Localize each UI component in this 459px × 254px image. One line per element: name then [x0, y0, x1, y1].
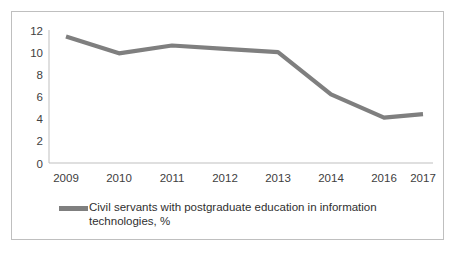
y-tick-label-10: 10: [30, 47, 43, 59]
y-tick-label-6: 6: [37, 91, 43, 103]
y-tick-label-2: 2: [37, 135, 43, 147]
chart-frame: 12 10 8 6 4 2 0 2009 2010 2011 2012 2013…: [11, 11, 444, 240]
data-series-line: [66, 37, 423, 118]
x-tick-label-2012: 2012: [212, 172, 238, 184]
x-tick-label-2016: 2016: [371, 172, 397, 184]
y-tick-label-12: 12: [30, 25, 43, 37]
x-tick-label-2017: 2017: [410, 172, 436, 184]
y-tick-label-0: 0: [37, 158, 43, 170]
y-tick-label-4: 4: [37, 113, 44, 125]
legend-label: Civil servants with postgraduate educati…: [88, 201, 419, 228]
x-tick-label-2014: 2014: [318, 172, 344, 184]
x-tick-label-2011: 2011: [160, 172, 185, 184]
x-tick-label-2010: 2010: [106, 172, 132, 184]
legend-line-swatch-icon: [59, 206, 88, 211]
x-tick-label-2013: 2013: [265, 172, 291, 184]
y-tick-label-8: 8: [37, 69, 43, 81]
chart-legend: Civil servants with postgraduate educati…: [59, 201, 429, 228]
x-tick-label-2009: 2009: [53, 172, 79, 184]
